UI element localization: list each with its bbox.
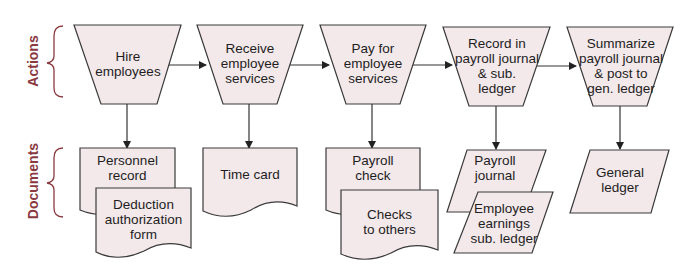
doc-label-payroll-check: Payroll check [326,151,420,185]
doc-label-deduction-form: Deduction authorization form [96,196,191,242]
documents-brace [47,148,63,217]
documents-row-label: Documents [25,139,43,223]
doc-label-general-ledger: General ledger [580,162,660,198]
doc-label-employee-earnings: Employee earnings sub. ledger [460,199,548,247]
doc-label-time-card: Time card [203,164,297,184]
action-label-hire: Hire employees [90,40,166,88]
action-label-pay: Pay for employee services [328,38,418,88]
doc-label-checks-to-others: Checks to others [341,205,438,239]
action-label-receive: Receive employee services [205,38,295,88]
doc-label-personnel-record: Personnel record [80,151,175,185]
actions-row-label: Actions [25,31,43,91]
doc-label-payroll-journal: Payroll journal [460,151,530,185]
action-label-summarize: Summarize payroll journal & post to gen.… [571,34,671,98]
actions-brace [47,26,63,97]
action-label-record: Record in payroll journal & sub. ledger [447,34,547,98]
